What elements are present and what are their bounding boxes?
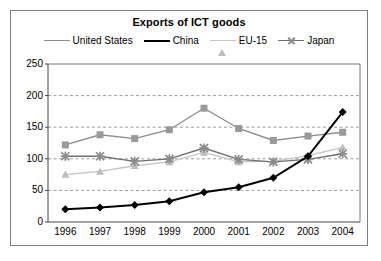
x-axis-tick-label: 2003 [291,226,325,237]
x-axis-tick-label: 1996 [48,226,82,237]
screenshot-root: ·························· Exports of IC… [0,0,381,261]
y-axis-tick-label: 150 [13,121,43,132]
x-axis-tick-label: 2004 [326,226,360,237]
x-axis-tick-label: 1999 [152,226,186,237]
y-axis-tick-label: 200 [13,90,43,101]
y-axis-tick-label: 250 [13,58,43,69]
plot-svg [11,11,369,245]
y-axis-tick-label: 50 [13,184,43,195]
cropped-text: ·························· [96,0,202,4]
x-axis-tick-label: 2000 [187,226,221,237]
x-axis-tick-label: 1997 [83,226,117,237]
cropped-text-sliver: ·························· [0,0,381,9]
y-axis-tick-label: 0 [13,216,43,227]
x-axis-tick-label: 1998 [118,226,152,237]
y-axis-tick-label: 100 [13,153,43,164]
x-axis-tick-label: 2001 [222,226,256,237]
plot-area: 0501001502002501996199719981999200020012… [11,11,369,245]
x-axis-tick-label: 2002 [256,226,290,237]
chart-container: Exports of ICT goods United States China [10,10,368,246]
